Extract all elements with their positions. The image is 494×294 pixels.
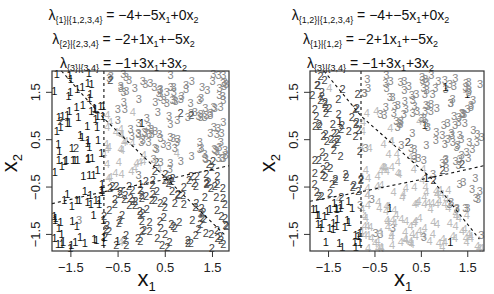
data-point-label: 1: [319, 218, 325, 230]
data-point-label: 4: [426, 235, 432, 247]
data-point-label: 2: [346, 125, 352, 137]
data-point-label: 2: [137, 235, 143, 247]
data-point-label: 3: [452, 72, 458, 84]
data-point-label: 3: [462, 81, 468, 93]
data-point-label: 2: [189, 214, 195, 226]
data-point-label: 4: [391, 204, 397, 216]
y-tick-label: −1.5: [28, 222, 43, 248]
data-point-label: 3: [459, 149, 465, 161]
data-point-label: 3: [444, 117, 450, 129]
data-point-label: 1: [70, 154, 76, 166]
data-point-label: 4: [411, 163, 417, 175]
data-point-label: 4: [389, 239, 395, 251]
data-point-label: 1: [59, 228, 65, 240]
data-point-label: 3: [389, 91, 395, 103]
data-point-label: 4: [463, 232, 469, 244]
data-point-label: 2: [213, 191, 219, 203]
data-point-label: 3: [198, 92, 204, 104]
data-point-label: 4: [400, 188, 406, 200]
data-point-label: 2: [336, 108, 342, 120]
data-point-label: 2: [220, 192, 226, 204]
data-point-label: 3: [442, 138, 448, 150]
data-point-label: 2: [338, 123, 344, 135]
data-point-label: 4: [118, 168, 124, 180]
data-point-label: 2: [127, 192, 133, 204]
data-point-label: 1: [91, 209, 97, 221]
data-point-label: 1: [69, 142, 75, 154]
data-point-label: 3: [470, 124, 476, 136]
data-point-label: 3: [152, 125, 158, 137]
data-point-label: 2: [316, 118, 322, 130]
data-point-label: 1: [323, 236, 329, 248]
data-point-label: 3: [187, 97, 193, 109]
data-point-label: 3: [419, 71, 425, 83]
data-point-label: 3: [152, 142, 158, 154]
data-point-label: 3: [447, 97, 453, 109]
data-point-label: 3: [428, 98, 434, 110]
y-tick-label: 1.5: [28, 83, 43, 101]
data-point-label: 1: [79, 131, 85, 143]
data-point-label: 4: [119, 144, 125, 156]
data-point-label: 2: [324, 135, 330, 147]
data-point-label: 1: [324, 205, 330, 217]
data-point-label: 1: [85, 137, 91, 149]
data-point-label: 4: [104, 143, 110, 155]
data-point-label: 1: [69, 200, 75, 212]
data-point-label: 3: [219, 127, 225, 139]
data-point-label: 1: [333, 220, 339, 232]
data-point-label: 4: [105, 172, 111, 184]
data-point-label: 1: [64, 188, 70, 200]
data-point-label: 2: [338, 191, 344, 203]
data-points: 1111222223222323111231211233322342332321…: [51, 67, 229, 254]
data-point-label: 1: [59, 238, 65, 250]
data-point-label: 3: [207, 127, 213, 139]
data-point-label: 4: [364, 107, 370, 119]
data-point-label: 1: [96, 194, 102, 206]
data-point-label: 2: [119, 209, 125, 221]
data-point-label: 3: [433, 126, 439, 138]
y-tick-label: −0.5: [28, 174, 43, 200]
data-point-label: 3: [132, 82, 138, 94]
data-point-label: 4: [436, 237, 442, 249]
data-point-label: 1: [85, 77, 91, 89]
data-point-label: 3: [383, 77, 389, 89]
x-tick-label: −0.5: [362, 260, 388, 275]
data-point-label: 4: [367, 221, 373, 233]
data-point-label: 2: [196, 223, 202, 235]
data-point-label: 4: [378, 242, 384, 254]
x-tick-label: −1.5: [58, 260, 84, 275]
data-point-label: 3: [203, 109, 209, 121]
data-point-label: 2: [318, 70, 324, 82]
data-point-label: 1: [94, 164, 100, 176]
x-axis-title: x1: [137, 266, 155, 294]
data-point-label: 4: [389, 135, 395, 147]
data-point-label: 4: [365, 242, 371, 254]
panel-right: λ{1,2}|{1,2,3,4} = −4+−5x1+0x2 λ{1}|{1,2…: [247, 0, 494, 294]
data-point-label: 2: [330, 118, 336, 130]
data-point-label: 3: [474, 136, 480, 148]
data-point-label: 3: [401, 75, 407, 87]
data-point-label: 4: [104, 158, 110, 170]
data-point-label: 3: [169, 94, 175, 106]
data-point-label: 4: [421, 198, 427, 210]
scatter-plot-right: 2323211331344441241422343333214342344344…: [247, 0, 494, 294]
data-point-label: 3: [129, 130, 135, 142]
data-point-label: 3: [158, 132, 164, 144]
data-point-label: 3: [466, 136, 472, 148]
data-point-label: 3: [174, 114, 180, 126]
data-point-label: 3: [179, 90, 185, 102]
data-point-label: 3: [362, 87, 368, 99]
data-point-label: 3: [115, 114, 121, 126]
data-point-label: 3: [464, 202, 470, 214]
data-point-label: 3: [421, 154, 427, 166]
data-point-label: 2: [430, 174, 436, 186]
data-point-label: 4: [452, 232, 458, 244]
data-point-label: 4: [365, 172, 371, 184]
data-point-label: 2: [185, 234, 191, 246]
data-point-label: 4: [384, 165, 390, 177]
data-point-label: 1: [86, 169, 92, 181]
x-axis-title: x1: [394, 266, 412, 294]
data-point-label: 3: [473, 192, 479, 204]
data-point-label: 1: [67, 86, 73, 98]
data-point-label: 4: [376, 202, 382, 214]
